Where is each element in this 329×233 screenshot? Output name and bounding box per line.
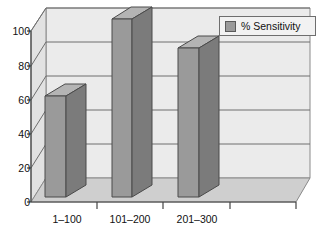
y-tick-label-60: 60 (4, 95, 30, 105)
legend-swatch-sensitivity (225, 21, 236, 32)
x-tick-label-101-200: 101–200 (97, 214, 163, 225)
left-side-wall (31, 8, 46, 202)
bar-front (178, 48, 199, 197)
chart-container: 100 80 60 40 20 0 1–100 101–200 201–300 … (0, 0, 329, 233)
y-tick-label-0: 0 (4, 197, 30, 207)
bar-101-200 (112, 7, 152, 197)
x-tick-label-1-100: 1–100 (34, 214, 100, 225)
bar-side (66, 84, 86, 197)
legend-label-sensitivity: % Sensitivity (241, 20, 301, 32)
x-tick-label-201-300: 201–300 (164, 214, 230, 225)
bar-side (199, 36, 219, 197)
bar-front (45, 96, 66, 197)
bar-front (112, 19, 132, 197)
y-tick-label-100: 100 (4, 26, 30, 36)
y-tick-label-20: 20 (4, 163, 30, 173)
y-tick-label-40: 40 (4, 129, 30, 139)
bar-201-300 (178, 36, 219, 197)
y-axis-label-group: 100 80 60 40 20 0 (0, 0, 30, 233)
y-tick-label-80: 80 (4, 61, 30, 71)
bar-side (132, 7, 152, 197)
x-axis-ticks (97, 202, 296, 209)
bar-1-100 (45, 84, 86, 197)
chart-legend: % Sensitivity (219, 16, 316, 36)
